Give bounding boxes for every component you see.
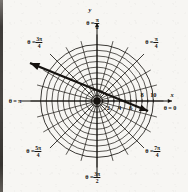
fraction-numerator: π [154,37,158,42]
angle-label-fraction: 7π4 [154,146,161,158]
fraction-denominator: 2 [95,25,99,30]
fraction-denominator: 2 [95,179,99,184]
fraction-denominator: 4 [37,44,41,49]
radial-tick-label-2: 2 [107,105,110,111]
angle-label-theta-7pi-4: θ =7π4 [145,146,160,158]
angle-label-fraction: π2 [95,18,100,30]
angle-label-theta-3pi-4: θ =3π4 [27,37,42,49]
angle-label-fraction: π4 [154,37,159,49]
fraction-numerator: 5π [35,146,42,151]
fraction-numerator: π [95,18,99,23]
angle-label-prefix: θ = [27,38,35,45]
angle-label-prefix: θ = [145,38,153,45]
fraction-denominator: 4 [36,153,40,158]
angle-label-prefix: θ = [86,19,94,26]
angle-label-theta-pi-4: θ =π4 [145,37,158,49]
x-axis-label: x [170,92,173,98]
fraction-denominator: 4 [155,153,159,158]
polar-grid-figure: θ = 0θ =π4θ =π2θ =3π4θ = πθ =5π4θ =3π2θ … [0,0,188,192]
radial-tick-label-4: 4 [118,105,121,111]
fraction-denominator: 4 [154,44,158,49]
radial-tick-label-8: 8 [140,91,143,97]
angle-label-theta-0: θ = 0 [164,105,176,111]
angle-label-fraction: 3π2 [94,172,101,184]
radial-tick-label-6: 6 [129,105,132,111]
angle-label-prefix: θ = [145,147,153,154]
angle-label-fraction: 5π4 [35,146,42,158]
angle-label-prefix: θ = [85,173,93,180]
fraction-numerator: 3π [94,172,101,177]
y-axis-label: y [89,7,92,13]
origin-dot [94,98,101,105]
angle-label-prefix: θ = [26,147,34,154]
angle-label-theta-5pi-4: θ =5π4 [26,146,41,158]
fraction-numerator: 7π [154,146,161,151]
angle-label-theta-3pi-2: θ =3π2 [85,172,100,184]
radial-tick-label-10: 10 [150,91,156,97]
fraction-numerator: 3π [36,37,43,42]
angle-label-fraction: 3π4 [36,37,43,49]
angle-label-theta-pi-2: θ =π2 [86,18,99,30]
angle-label-theta-pi: θ = π [9,98,22,104]
